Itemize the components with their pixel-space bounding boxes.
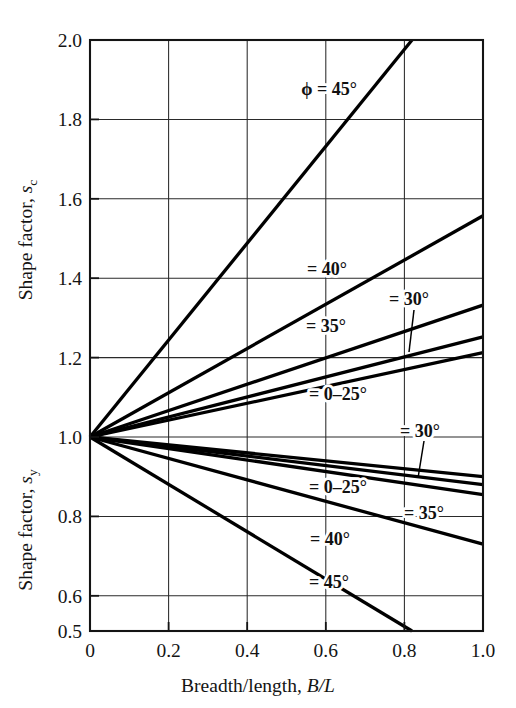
y-axis-title-lower-plain: Shape factor, (15, 484, 36, 591)
y-tick-label-1.0: 1.0 (58, 427, 82, 448)
annotation-sy-phi-0-25: = 0–25° (309, 477, 367, 497)
x-tick-label-0.6: 0.6 (314, 640, 339, 661)
annotation-sy-phi-35: = 35° (404, 503, 444, 523)
y-axis-title-upper-plain: Shape factor, (15, 193, 36, 300)
y-axis-title-upper-sub: c (25, 180, 40, 186)
x-tick-label-0.4: 0.4 (235, 640, 260, 661)
y-tick-label-1.8: 1.8 (58, 109, 82, 130)
x-axis-title-italic: B/L (307, 675, 335, 696)
x-axis-title: Breadth/length, B/L (181, 675, 335, 696)
figure-container: 2.0 1.8 1.6 1.4 1.2 1.0 0.8 0.6 0.5 0 0.… (0, 0, 516, 708)
y-axis-title-upper-italic: s (15, 186, 36, 194)
y-tick-label-2.0: 2.0 (58, 30, 82, 51)
y-tick-label-1.4: 1.4 (58, 268, 83, 289)
y-tick-label-0.6: 0.6 (58, 586, 83, 607)
annotation-sc-phi-30: = 30° (389, 289, 429, 309)
annotation-sc-phi-0-25: = 0–25° (309, 384, 367, 404)
x-tick-label-0.2: 0.2 (156, 640, 180, 661)
annotation-sc-phi-45: ϕ = 45° (301, 79, 357, 99)
annotation-sy-phi-45: = 45° (309, 572, 349, 592)
y-axis-title-lower-italic: s (15, 476, 36, 484)
y-tick-label-0.5: 0.5 (58, 621, 82, 642)
x-axis-title-plain: Breadth/length, (181, 675, 307, 696)
x-tick-label-0.8: 0.8 (392, 640, 416, 661)
annotation-sy-phi-30: = 30° (400, 421, 440, 441)
shape-factor-chart: 2.0 1.8 1.6 1.4 1.2 1.0 0.8 0.6 0.5 0 0.… (0, 0, 516, 708)
x-tick-label-1.0: 1.0 (471, 640, 495, 661)
y-axis-title-lower-sub: y (25, 469, 40, 476)
y-tick-label-1.2: 1.2 (58, 348, 82, 369)
y-tick-label-1.6: 1.6 (58, 189, 83, 210)
annotation-sc-phi-40: = 40° (307, 259, 347, 279)
y-tick-label-0.8: 0.8 (58, 506, 82, 527)
annotation-sy-phi-40: = 40° (310, 529, 350, 549)
x-tick-label-0: 0 (85, 640, 95, 661)
annotation-sc-phi-35: = 35° (306, 316, 346, 336)
